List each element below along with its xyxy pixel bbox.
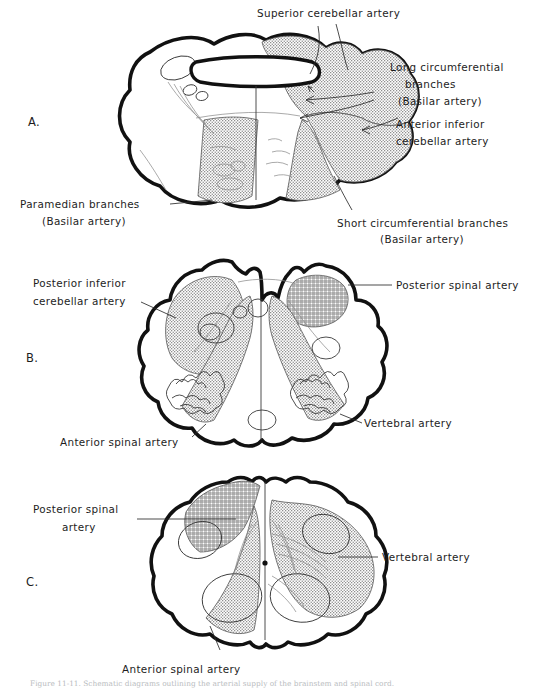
- label-long-circumferential-line3: (Basilar artery): [398, 95, 482, 107]
- label-anterior-spinal-c: Anterior spinal artery: [122, 663, 241, 675]
- label-posterior-spinal-line1-c: Posterior spinal: [33, 503, 119, 515]
- brainstem-figure-svg: A.: [0, 0, 538, 689]
- panel-a-pons: A.: [20, 7, 508, 245]
- panel-b-medulla: B.: [26, 260, 519, 448]
- label-vertebral-b: Vertebral artery: [364, 417, 452, 429]
- label-paramedian-line2: (Basilar artery): [42, 215, 126, 227]
- label-pica-line1-b: Posterior inferior: [33, 277, 126, 289]
- label-paramedian-line1: Paramedian branches: [20, 198, 140, 210]
- panel-c-letter: C.: [26, 575, 39, 589]
- label-vertebral-c: Vertebral artery: [382, 551, 470, 563]
- label-aica-line2: cerebellar artery: [396, 135, 489, 147]
- label-posterior-spinal-b: Posterior spinal artery: [396, 279, 519, 291]
- label-anterior-spinal-b: Anterior spinal artery: [60, 436, 179, 448]
- panel-c-spinal-cord: C. P: [26, 478, 470, 676]
- figure-root: A.: [0, 0, 538, 689]
- panel-a-letter: A.: [28, 115, 40, 129]
- panel-b-letter: B.: [26, 351, 38, 365]
- label-aica-line1: Anterior inferior: [396, 118, 485, 130]
- central-canal-c: [262, 560, 267, 565]
- label-posterior-spinal-line2-c: artery: [62, 521, 96, 533]
- label-superior-cerebellar-artery-a: Superior cerebellar artery: [257, 7, 400, 19]
- figure-caption: Figure 11-11. Schematic diagrams outlini…: [30, 679, 530, 688]
- label-long-circumferential-line1: Long circumferential: [390, 61, 504, 73]
- label-short-circ-line1: Short circumferential branches: [337, 217, 508, 229]
- fourth-ventricle: [191, 57, 319, 87]
- label-long-circumferential-line2: branches: [405, 78, 456, 90]
- label-pica-line2-b: cerebellar artery: [33, 295, 126, 307]
- label-short-circ-line2: (Basilar artery): [380, 233, 464, 245]
